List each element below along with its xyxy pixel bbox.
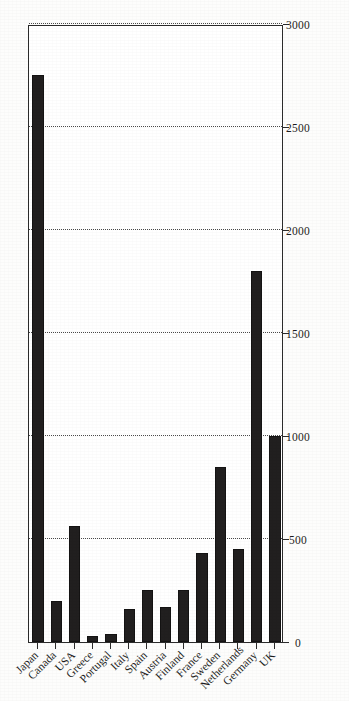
- bar-slot: [196, 24, 207, 642]
- bar: [196, 553, 207, 642]
- bar-series: [29, 26, 282, 642]
- bar: [105, 634, 116, 642]
- bar: [215, 467, 226, 642]
- value-tick-label: 0: [280, 637, 316, 649]
- bar-slot: [51, 24, 62, 642]
- bar: [233, 549, 244, 642]
- bar-chart-figure: 050010001500200025003000 UKGermanyNether…: [0, 0, 349, 701]
- category-tick-mark: [55, 643, 56, 649]
- bar-slot: [160, 24, 171, 642]
- bar-slot: [87, 24, 98, 642]
- category-tick-mark: [165, 643, 166, 649]
- bar: [178, 591, 189, 643]
- category-tick-mark: [110, 643, 111, 649]
- value-tick-label: 1500: [280, 328, 316, 340]
- plot-area: [28, 25, 283, 643]
- bar-slot: [233, 24, 244, 642]
- bar: [251, 271, 262, 642]
- value-tick-label: 1000: [280, 431, 316, 443]
- bar-slot: [124, 24, 135, 642]
- value-tick-label: 3000: [280, 19, 316, 31]
- bar: [142, 591, 153, 643]
- bar-slot: [105, 24, 116, 642]
- bar-slot: [32, 24, 43, 642]
- category-tick-mark: [37, 643, 38, 649]
- category-tick-mark: [146, 643, 147, 649]
- value-tick-label: 500: [280, 534, 316, 546]
- category-tick-mark: [74, 643, 75, 649]
- bar-slot: [69, 24, 80, 642]
- category-tick-mark: [128, 643, 129, 649]
- bar: [87, 636, 98, 642]
- category-tick-mark: [274, 643, 275, 649]
- value-tick-label: 2500: [280, 122, 316, 134]
- bar: [51, 601, 62, 642]
- category-tick-mark: [219, 643, 220, 649]
- category-tick-mark: [92, 643, 93, 649]
- bar: [269, 436, 280, 642]
- bar: [124, 609, 135, 642]
- bar-slot: [269, 24, 280, 642]
- chart-rotator: 050010001500200025003000 UKGermanyNether…: [0, 0, 349, 701]
- bar: [69, 526, 80, 642]
- bar-slot: [142, 24, 153, 642]
- category-tick-mark: [201, 643, 202, 649]
- value-tick-label: 2000: [280, 225, 316, 237]
- bar: [32, 76, 43, 643]
- category-tick-mark: [256, 643, 257, 649]
- bar: [160, 607, 171, 642]
- bar-slot: [251, 24, 262, 642]
- bar-slot: [215, 24, 226, 642]
- bar-slot: [178, 24, 189, 642]
- category-tick-mark: [183, 643, 184, 649]
